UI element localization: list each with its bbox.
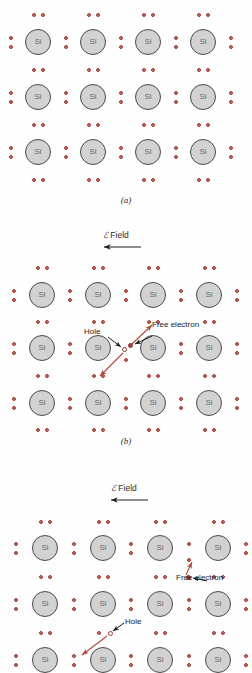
valence-electron (41, 123, 45, 127)
valence-electron (244, 542, 248, 546)
valence-electron (129, 607, 133, 611)
si-atom: Si (205, 535, 231, 561)
si-atom: Si (140, 282, 166, 308)
valence-electron (9, 45, 13, 49)
valence-electron (48, 520, 52, 524)
valence-electron (235, 397, 239, 401)
valence-electron (36, 374, 40, 378)
valence-electron (174, 36, 178, 40)
valence-electron (45, 266, 49, 270)
valence-electron (9, 100, 13, 104)
valence-electron (39, 575, 43, 579)
si-atom: Si (29, 390, 55, 416)
valence-electron (179, 298, 183, 302)
si-atom: Si (80, 139, 106, 165)
valence-electron (154, 631, 158, 635)
valence-electron (229, 155, 233, 159)
valence-electron (92, 374, 96, 378)
si-atom: Si (25, 84, 51, 110)
valence-electron (119, 155, 123, 159)
valence-electron (206, 178, 210, 182)
valence-electron (235, 406, 239, 410)
si-atom: Si (140, 335, 166, 361)
si-atom: Si (25, 139, 51, 165)
valence-electron (12, 342, 16, 346)
valence-electron (244, 654, 248, 658)
valence-electron (174, 100, 178, 104)
valence-electron (39, 631, 43, 635)
valence-electron (92, 266, 96, 270)
valence-electron (187, 654, 191, 658)
valence-electron (32, 123, 36, 127)
valence-electron (12, 298, 16, 302)
valence-electron (96, 13, 100, 17)
valence-electron (235, 342, 239, 346)
valence-electron (229, 91, 233, 95)
valence-electron (72, 654, 76, 658)
si-atom: Si (32, 647, 58, 673)
valence-electron (174, 146, 178, 150)
valence-electron (87, 123, 91, 127)
si-atom: Si (190, 29, 216, 55)
valence-electron (14, 551, 18, 555)
valence-electron (147, 320, 151, 324)
valence-electron (244, 663, 248, 667)
valence-electron (129, 598, 133, 602)
hole-label: Hole (125, 617, 141, 626)
valence-electron (163, 631, 167, 635)
valence-electron (12, 406, 16, 410)
valence-electron (96, 123, 100, 127)
si-atom: Si (29, 335, 55, 361)
field-label-text: Field (108, 230, 129, 240)
valence-electron (212, 374, 216, 378)
valence-electron (101, 266, 105, 270)
valence-electron (92, 320, 96, 324)
valence-electron (197, 178, 201, 182)
valence-electron (179, 289, 183, 293)
valence-electron (179, 342, 183, 346)
valence-electron (179, 351, 183, 355)
valence-electron (147, 266, 151, 270)
si-atom: Si (29, 282, 55, 308)
valence-electron (64, 100, 68, 104)
valence-electron (229, 36, 233, 40)
valence-electron (235, 351, 239, 355)
valence-electron (124, 397, 128, 401)
panel-caption-b: (b) (0, 436, 252, 446)
valence-electron (212, 266, 216, 270)
valence-electron (151, 13, 155, 17)
valence-electron (212, 631, 216, 635)
valence-electron (174, 45, 178, 49)
valence-electron (68, 397, 72, 401)
si-atom: Si (190, 139, 216, 165)
valence-electron (68, 289, 72, 293)
valence-electron (151, 178, 155, 182)
valence-electron (14, 542, 18, 546)
valence-electron (156, 266, 160, 270)
valence-electron (163, 520, 167, 524)
valence-electron (124, 298, 128, 302)
si-atom: Si (196, 282, 222, 308)
valence-electron (212, 428, 216, 432)
valence-electron (156, 428, 160, 432)
panel-caption-a: (a) (0, 195, 252, 205)
si-atom: Si (32, 591, 58, 617)
si-atom: Si (32, 535, 58, 561)
valence-electron (203, 320, 207, 324)
valence-electron (221, 520, 225, 524)
panel-c: ℰ Field Si Si Si Si Si Si Si Si Si Si Si… (0, 450, 252, 672)
valence-electron (221, 631, 225, 635)
valence-electron (97, 631, 101, 635)
valence-electron (87, 178, 91, 182)
valence-electron (206, 68, 210, 72)
valence-electron (106, 575, 110, 579)
si-atom: Si (135, 139, 161, 165)
valence-electron (187, 598, 191, 602)
valence-electron (36, 266, 40, 270)
free-electron-carrier (128, 343, 133, 348)
valence-electron (197, 68, 201, 72)
valence-electron (39, 520, 43, 524)
valence-electron (203, 428, 207, 432)
valence-electron (203, 374, 207, 378)
